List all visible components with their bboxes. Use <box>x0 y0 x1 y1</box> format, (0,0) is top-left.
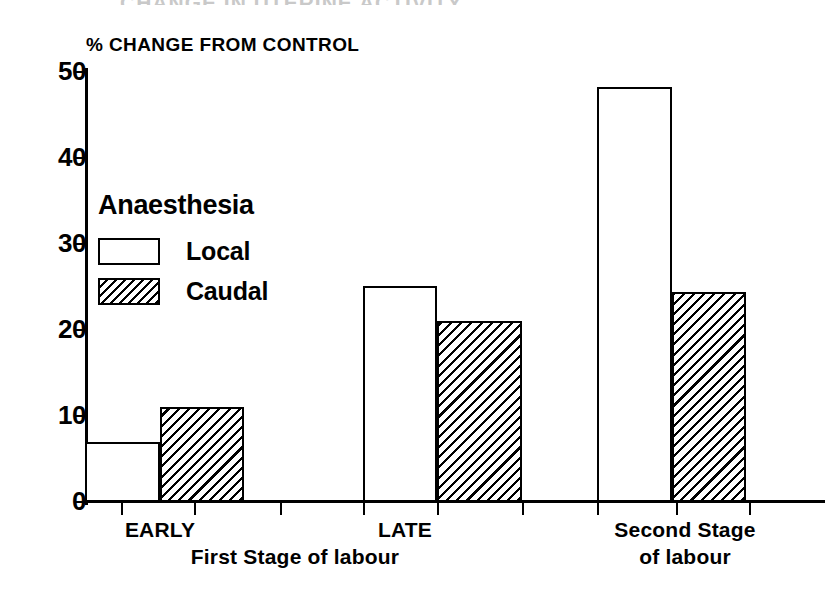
bar-second-caudal <box>672 292 746 502</box>
cut-off-title: CHANGE IN UTERINE ACTIVITY <box>120 0 740 5</box>
y-tick-label-20: 20 <box>46 316 86 342</box>
x-group-label-first-stage: First Stage of labour <box>130 545 460 569</box>
bar-late-caudal <box>437 321 522 502</box>
legend-item-caudal: Caudal <box>98 271 348 311</box>
legend-item-local: Local <box>98 231 348 271</box>
y-tick-label-40: 40 <box>46 144 86 170</box>
legend-label-caudal: Caudal <box>186 277 268 306</box>
bar-second-local <box>597 87 672 502</box>
legend-swatch-caudal-icon <box>98 278 160 305</box>
x-tick-mark-4 <box>363 502 365 515</box>
bar-early-local <box>85 442 160 502</box>
legend: Anaesthesia Local Caudal <box>98 190 348 311</box>
bar-late-local <box>363 286 437 502</box>
y-tick-label-0: 0 <box>46 488 86 514</box>
bar-early-caudal <box>160 407 244 502</box>
x-category-label-late: LATE <box>340 518 470 542</box>
y-tick-label-50: 50 <box>46 58 86 84</box>
y-tick-label-10: 10 <box>46 402 86 428</box>
x-tick-mark-5 <box>437 502 439 515</box>
y-tick-label-30: 30 <box>46 230 86 256</box>
x-category-label-second-stage-line1: Second Stage <box>590 518 780 542</box>
legend-label-local: Local <box>186 237 250 266</box>
x-tick-mark-2 <box>194 502 196 515</box>
y-axis-ticks: 0 10 20 30 40 50 <box>0 0 86 599</box>
legend-title: Anaesthesia <box>98 190 348 221</box>
x-tick-mark-7 <box>597 502 599 515</box>
x-tick-mark-3 <box>280 502 282 515</box>
y-axis-title: % CHANGE FROM CONTROL <box>86 34 359 56</box>
x-tick-mark-8 <box>676 502 678 515</box>
x-tick-mark-9 <box>749 502 751 515</box>
x-tick-mark-1 <box>121 502 123 515</box>
x-category-label-second-stage-line2: of labour <box>590 545 780 569</box>
x-tick-mark-6 <box>522 502 524 515</box>
chart-figure: CHANGE IN UTERINE ACTIVITY % CHANGE FROM… <box>0 0 827 599</box>
legend-swatch-local-icon <box>98 238 160 265</box>
x-category-label-early: EARLY <box>95 518 225 542</box>
